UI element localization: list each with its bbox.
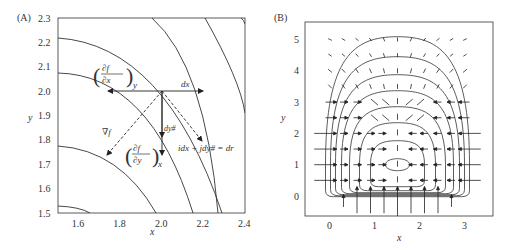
field-arrow [450,54,453,57]
x-axis-ticks-a: 1.61.82.02.22.4 [72,218,251,229]
field-arrow [328,39,332,41]
field-arrow [371,99,378,105]
field-arrow [423,69,425,74]
arrow-head [434,101,437,104]
field-arrow [423,53,425,56]
arrow-head [334,116,337,119]
field-arrow [370,84,372,89]
y-tick-label: 2 [294,128,299,139]
field-arrow [424,84,426,89]
x-tick-label: 0 [327,220,332,231]
arrow-head [334,132,337,135]
y-tick-label: 1.9 [38,110,51,121]
y-tick-label: 3 [294,97,299,108]
field-arrow [436,38,439,41]
svg-text:(: ( [93,63,100,88]
panel-b-label: (B) [274,12,287,24]
x-tick-label: 1.6 [72,218,85,229]
y-axis-label-a: y [27,112,33,123]
arrow-head [358,163,361,166]
label-dfdx-y: ( ) ∂f ∂x y [93,63,137,90]
svg-text:∂f: ∂f [133,143,141,153]
arrow-head [358,179,361,182]
arrow-head [420,163,423,166]
arrow-head [447,148,450,151]
svg-text:(: ( [125,143,132,168]
label-dr: idx + jdy# = dr [178,143,234,153]
field-arrow [371,115,378,121]
field-arrow [383,68,384,73]
field-arrow [463,54,466,56]
streamline [331,57,465,196]
arrow-head [447,163,450,166]
arrow-head [345,101,348,104]
field-arrow [437,84,440,88]
svg-text:∂x: ∂x [102,75,110,85]
x-axis-label-b: x [396,232,402,243]
arrow-head [447,116,450,119]
arrow-head [383,179,386,182]
figure: (A) 1.51.61.71.81.92.02.12.22.3 1.61.82.… [0,0,512,250]
arrow-head [345,132,348,135]
label-dy: dy# [164,124,177,133]
y-tick-label: 2.1 [38,61,51,72]
y-tick-label: 2.0 [38,86,51,97]
field-arrow [383,53,384,57]
arrow-head [409,179,412,182]
field-arrow [437,69,440,73]
y-axis-ticks-a: 1.51.61.71.81.92.02.12.22.3 [38,13,51,219]
field-arrow [410,38,412,42]
field-arrow [328,54,331,56]
field-arrow [450,69,453,73]
arrow-head [345,179,348,182]
label-dfdy-x: ( ) ∂f ∂y x [125,143,162,169]
y-axis-label-b: y [280,112,286,123]
field-arrow [342,38,345,40]
plot-area-a [58,18,245,213]
field-arrow [417,115,424,121]
contour-lines [58,18,245,213]
arrow-head [420,132,423,135]
field-arrow [463,39,467,41]
panel-b: (B) 012345 0123 x y [274,12,493,243]
y-tick-label: 4 [294,65,299,76]
field-arrow [382,99,389,105]
field-arrow [450,38,453,40]
panel-a: (A) 1.51.61.71.81.92.02.12.22.3 1.61.82.… [17,12,251,237]
field-arrow [342,69,345,73]
arrow-head [369,187,372,190]
arrow-head [458,101,461,104]
vector-field [314,37,481,216]
field-arrow [410,68,411,73]
arrow-head [345,116,348,119]
y-tick-label: 1.8 [38,134,51,145]
label-grad: ∇f [102,127,112,137]
dr-arrow [162,91,202,141]
arrow-head [345,163,348,166]
field-arrow [328,69,332,72]
arrow-head [458,179,461,182]
arrow-head [372,163,375,166]
field-arrow [328,85,331,89]
field-arrow [406,99,413,105]
field-arrow [383,38,385,42]
field-arrows [314,38,481,217]
y-tick-label: 1.6 [38,183,51,194]
field-arrow [463,69,467,72]
field-arrow [355,38,358,41]
y-tick-label: 1.5 [38,208,51,219]
arrow-head [345,148,348,151]
arrow-head [409,148,412,151]
label-dx: dx [181,79,190,89]
arrow-head [458,132,461,135]
arrow-head [434,179,437,182]
svg-text:∂y: ∂y [133,155,141,165]
field-arrow [356,69,359,73]
arrow-head [458,163,461,166]
arrow-head [372,132,375,135]
arrow-head [383,132,386,135]
svg-text:x: x [157,159,162,169]
arrow-head [334,179,337,182]
arrow-head [358,101,361,104]
arrow-head [355,187,358,190]
